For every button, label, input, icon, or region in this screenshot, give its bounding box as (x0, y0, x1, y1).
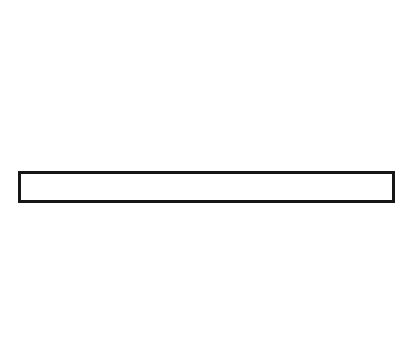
figure (0, 0, 413, 364)
digital-signal-table (18, 171, 395, 203)
